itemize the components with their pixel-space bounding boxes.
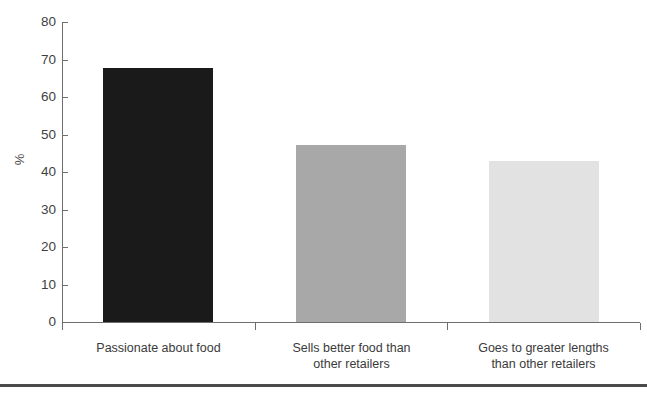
x-axis-category-label: Goes to greater lengthsthan other retail… <box>447 340 640 372</box>
y-axis-tick-label: 10 <box>26 278 56 292</box>
x-axis-tick-mark <box>447 323 448 330</box>
y-axis-tick-label: 0 <box>26 315 56 329</box>
y-axis-tick-mark <box>62 172 68 173</box>
y-axis-tick-mark <box>62 285 68 286</box>
x-axis-category-label: Passionate about food <box>62 340 255 356</box>
x-axis-category-label-line: Goes to greater lengths <box>447 340 640 356</box>
bar-chart: % 01020304050607080 Passionate about foo… <box>0 0 647 396</box>
y-axis-title: % <box>12 143 27 177</box>
x-axis-category-label-line: Passionate about food <box>62 340 255 356</box>
y-axis-tick-mark <box>62 210 68 211</box>
y-axis-tick-label: 70 <box>26 53 56 67</box>
y-axis-tick-label: 30 <box>26 203 56 217</box>
y-axis-tick-label: 60 <box>26 90 56 104</box>
x-axis-tick-mark <box>640 323 641 330</box>
y-axis-tick-label: 50 <box>26 128 56 142</box>
x-axis-category-label-line: than other retailers <box>447 356 640 372</box>
x-axis-line <box>62 322 640 323</box>
x-axis-category-label: Sells better food thanother retailers <box>255 340 448 372</box>
bar <box>103 68 213 322</box>
y-axis-tick-label: 20 <box>26 240 56 254</box>
y-axis-tick-mark <box>62 22 68 23</box>
x-axis-tick-mark <box>255 323 256 330</box>
x-axis-category-label-line: other retailers <box>255 356 448 372</box>
x-axis-category-label-line: Sells better food than <box>255 340 448 356</box>
y-axis-tick-mark <box>62 247 68 248</box>
x-axis-tick-mark <box>62 323 63 330</box>
y-axis-tick-label: 80 <box>26 15 56 29</box>
bar <box>296 145 406 322</box>
y-axis-tick-mark <box>62 135 68 136</box>
y-axis-tick-mark <box>62 97 68 98</box>
y-axis-tick-mark <box>62 60 68 61</box>
bottom-rule-divider <box>0 384 647 387</box>
y-axis-tick-label: 40 <box>26 165 56 179</box>
bar <box>489 161 599 322</box>
